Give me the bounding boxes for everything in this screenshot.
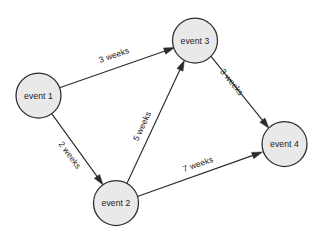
diagram-canvas: 3 weeks 2 weeks 5 weeks 3 weeks 7 we	[0, 0, 324, 243]
edge-event1-to-event3[interactable]: 3 weeks	[60, 45, 175, 88]
edge-event3-to-event4[interactable]: 3 weeks	[211, 56, 269, 128]
edge-line	[127, 68, 181, 183]
edge-label-5-weeks: 5 weeks	[131, 110, 153, 143]
edge-label-2-weeks: 2 weeks	[57, 139, 84, 170]
node-event1[interactable]: event 1	[16, 73, 61, 118]
arrowhead-icon	[94, 174, 103, 184]
node-label-event2: event 2	[102, 198, 131, 208]
arrowhead-icon	[252, 152, 263, 159]
arrowhead-icon	[260, 118, 269, 128]
event-network-diagram: 3 weeks 2 weeks 5 weeks 3 weeks 7 we	[0, 0, 324, 243]
node-label-event4: event 4	[270, 139, 299, 149]
edge-event1-to-event2[interactable]: 2 weeks	[52, 114, 103, 185]
arrowhead-icon	[163, 48, 174, 55]
node-event2[interactable]: event 2	[94, 181, 139, 226]
edge-event2-to-event3[interactable]: 5 weeks	[127, 60, 184, 183]
edge-label-3-weeks-2: 3 weeks	[218, 67, 246, 98]
node-label-event3: event 3	[181, 36, 210, 46]
node-event4[interactable]: event 4	[262, 122, 307, 167]
edges-layer: 3 weeks 2 weeks 5 weeks 3 weeks 7 we	[52, 45, 269, 196]
node-label-event1: event 1	[24, 91, 53, 101]
node-event3[interactable]: event 3	[173, 18, 218, 63]
edge-event2-to-event4[interactable]: 7 weeks	[138, 152, 262, 196]
edge-label-3-weeks: 3 weeks	[98, 45, 131, 65]
arrowhead-icon	[177, 60, 184, 71]
